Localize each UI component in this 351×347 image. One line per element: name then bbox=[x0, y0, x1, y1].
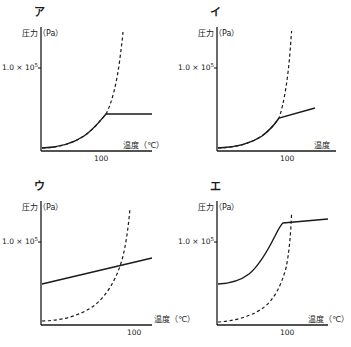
panel-d: エ 圧力（Pa） 1.0 × 105 100 温度（℃） bbox=[176, 174, 351, 347]
panel-b-plot bbox=[176, 0, 351, 173]
panel-c-dashed-curve bbox=[42, 208, 130, 321]
four-panel-graph-figure: ア 圧力（Pa） 1.0 × 105 100 温度（℃） イ 圧力（Pa） 1.… bbox=[0, 0, 351, 347]
panel-c-solid-line bbox=[42, 258, 152, 284]
panel-c: ウ 圧力（Pa） 1.0 × 105 100 温度（℃） bbox=[0, 174, 175, 347]
panel-a-dashed-curve bbox=[42, 32, 123, 148]
panel-a-solid-curve bbox=[42, 114, 152, 148]
panel-a-plot bbox=[0, 0, 175, 173]
panel-b-dashed-curve bbox=[218, 31, 292, 148]
panel-c-plot bbox=[0, 174, 175, 347]
panel-d-solid-curve bbox=[218, 219, 328, 284]
panel-a: ア 圧力（Pa） 1.0 × 105 100 温度（℃） bbox=[0, 0, 175, 173]
panel-d-plot bbox=[176, 174, 351, 347]
panel-b: イ 圧力（Pa） 1.0 × 105 100 温度 bbox=[176, 0, 351, 173]
panel-b-solid-curve bbox=[218, 108, 315, 148]
